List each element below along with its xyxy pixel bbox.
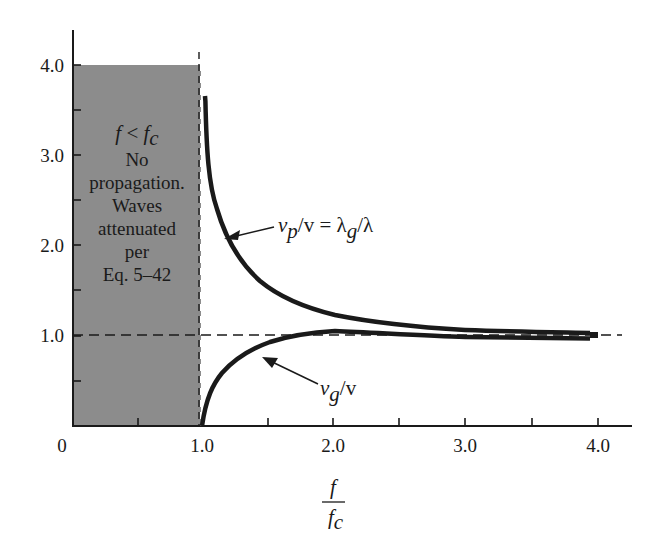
x-tick-label: 0 <box>57 435 67 456</box>
x-tick-label: 2.0 <box>321 435 345 456</box>
y-tick-label: 1.0 <box>40 325 64 346</box>
chart-canvas: 1.0 2.0 3.0 4.0 0 1.0 2.0 3.0 4.0 f < fc… <box>0 0 657 553</box>
shade-note-line: attenuated <box>98 218 177 239</box>
group-velocity-label: vg/v <box>320 376 357 406</box>
x-axis-label-denominator: fc <box>328 505 344 534</box>
shade-note-line: Eq. 5–42 <box>103 264 172 285</box>
x-ticks <box>138 418 598 426</box>
shade-note-line: Waves <box>112 195 162 216</box>
group-velocity-curve <box>202 331 590 426</box>
x-tick-label: 1.0 <box>190 435 214 456</box>
x-axis-label-numerator: f <box>330 475 339 499</box>
arrowhead-icon <box>262 357 278 368</box>
y-tick-label: 3.0 <box>40 145 64 166</box>
shade-note-line: propagation. <box>89 172 185 193</box>
shade-note-line: per <box>125 241 150 262</box>
phase-velocity-curve <box>205 96 590 333</box>
x-tick-label: 3.0 <box>453 435 477 456</box>
y-tick-label: 2.0 <box>40 235 64 256</box>
phase-velocity-label: vp/v = λg/λ <box>278 213 374 243</box>
y-tick-label: 4.0 <box>40 55 64 76</box>
x-tick-label: 4.0 <box>586 435 610 456</box>
shade-note-line: No <box>125 149 148 170</box>
